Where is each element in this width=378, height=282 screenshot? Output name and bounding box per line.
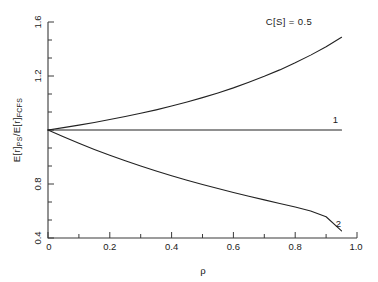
- ylabel-sub1: PS: [16, 136, 23, 146]
- x-tick-label: 1.0: [349, 241, 362, 252]
- cs-half-label: C[S] = 0.5: [266, 16, 313, 27]
- curve-cs-2: [48, 130, 342, 231]
- curve-2-label: 2: [336, 218, 341, 229]
- x-tick-labels: 0 0.2 0.4 0.6 0.8 1.0: [46, 241, 362, 252]
- y-tick-label: 0.8: [32, 177, 43, 190]
- y-tick-label: 1.2: [32, 69, 43, 82]
- ylabel-sub2: FCFS: [16, 98, 23, 118]
- x-tick-label: 0: [46, 241, 51, 252]
- x-axis-title: ρ: [200, 264, 206, 276]
- curves-group: [48, 37, 342, 231]
- y-tick-labels: 1.6 1.2 0.8 0.4: [32, 15, 43, 244]
- x-axis-ticks: [48, 232, 357, 238]
- curve-cs-0-5: [48, 37, 342, 130]
- x-tick-label: 0.2: [103, 241, 116, 252]
- annotations-group: C[S] = 0.5 1 2: [266, 16, 341, 230]
- x-tick-label: 0.8: [289, 241, 302, 252]
- ylabel-base1: E[r]: [11, 146, 22, 162]
- chart-svg: 1.6 1.2 0.8 0.4 0 0.2 0.4 0.6 0.8 1.0: [0, 0, 378, 282]
- x-tick-label: 0.6: [227, 241, 240, 252]
- y-axis-title-text: E[r]PS/E[r]FCFS: [11, 98, 23, 162]
- y-tick-label: 0.4: [32, 231, 43, 244]
- curve-1-label: 1: [333, 114, 338, 125]
- x-tick-label: 0.4: [165, 241, 178, 252]
- y-axis-title: E[r]PS/E[r]FCFS: [11, 98, 23, 162]
- chart-figure: 1.6 1.2 0.8 0.4 0 0.2 0.4 0.6 0.8 1.0: [0, 0, 378, 282]
- y-tick-label: 1.6: [32, 15, 43, 28]
- ylabel-base2: E[r]: [11, 117, 22, 133]
